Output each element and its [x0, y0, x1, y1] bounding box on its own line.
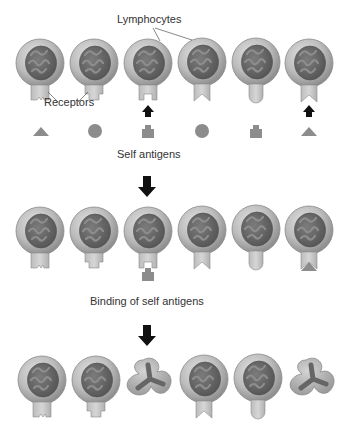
lymphocyte	[16, 39, 64, 100]
lymphocyte	[232, 38, 280, 103]
arrow-down-icon	[138, 325, 156, 346]
lymphocyte	[178, 38, 226, 101]
stage-result	[18, 354, 334, 419]
dead-lymphocyte	[290, 358, 334, 395]
lymphocyte	[72, 356, 120, 417]
label-receptors: Receptors	[44, 96, 94, 108]
lymphocyte	[124, 39, 172, 100]
stage-binding	[16, 205, 333, 281]
arrow-down-icon	[138, 176, 156, 197]
lymphocyte	[285, 39, 333, 102]
antigen-triangle	[33, 127, 49, 136]
lymphocyte	[70, 207, 118, 268]
label-binding-self-antigens: Binding of self antigens	[90, 295, 204, 307]
leader-line	[153, 28, 160, 41]
lymphocyte	[70, 39, 118, 100]
antigen-block	[142, 125, 154, 138]
lymphocyte	[180, 355, 228, 418]
antigen-triangle	[301, 127, 317, 136]
arrow-up-icon	[303, 105, 315, 117]
lymphocyte	[16, 207, 64, 268]
lymphocyte	[178, 206, 226, 269]
lymphocyte	[232, 205, 280, 270]
lymphocyte	[18, 356, 66, 417]
stage-initial	[16, 28, 333, 138]
clonal-deletion-diagram	[0, 0, 354, 423]
leader-line	[155, 28, 192, 40]
dead-lymphocyte	[127, 358, 171, 395]
lymphocyte	[285, 206, 333, 271]
label-self-antigens: Self antigens	[117, 148, 181, 160]
arrow-up-icon	[142, 105, 154, 117]
antigen-block	[250, 125, 262, 138]
lymphocyte	[124, 207, 172, 281]
antigen-circle	[88, 124, 102, 138]
label-lymphocytes: Lymphocytes	[117, 13, 181, 25]
antigen-circle	[195, 124, 209, 138]
lymphocyte	[234, 354, 282, 419]
